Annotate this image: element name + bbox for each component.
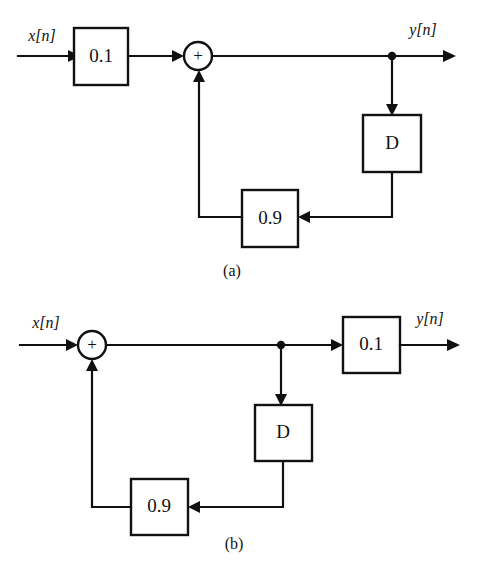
block-gain-feedback-b-label: 0.9: [147, 495, 171, 516]
figure-root: 0.1 +: [0, 0, 478, 564]
output-signal-label-a: y[n]: [407, 21, 437, 39]
adder-a[interactable]: +: [184, 42, 212, 70]
block-gain-feedback-a-label: 0.9: [258, 207, 282, 228]
adder-b-plus-label: +: [87, 335, 97, 354]
arrowhead-icon: [66, 339, 78, 351]
panel-a-caption: (a): [223, 262, 241, 280]
input-signal-label-b: x[n]: [31, 314, 60, 331]
wire-gain-to-output-b: [400, 339, 460, 351]
adder-b[interactable]: +: [78, 331, 106, 359]
block-delay-a[interactable]: D: [363, 115, 421, 172]
block-gain-forward-b-label: 0.1: [359, 333, 383, 354]
wire-tap-to-delay-b: [275, 345, 287, 406]
block-diagram-figure: 0.1 +: [0, 0, 478, 564]
wire-sum-to-output-a: [212, 50, 456, 62]
wire-gain-to-sum-a: [128, 50, 184, 62]
arrowhead-icon: [86, 359, 98, 371]
wire-input-to-sum-b: [20, 339, 78, 351]
arrowhead-icon: [298, 211, 310, 223]
arrowhead-icon: [447, 339, 460, 351]
wire-sum-to-gain-b: [106, 339, 343, 351]
block-delay-a-label: D: [385, 132, 399, 153]
wire-gainfb-to-sum-a: [193, 70, 242, 217]
block-gain-forward-b[interactable]: 0.1: [343, 317, 400, 373]
wire-delay-to-gainfb-b: [188, 461, 283, 513]
block-gain-forward-a[interactable]: 0.1: [74, 28, 128, 85]
adder-a-plus-label: +: [193, 46, 203, 65]
arrowhead-icon: [188, 501, 200, 513]
block-delay-b[interactable]: D: [255, 405, 312, 461]
wire-input-to-gain-a: [18, 50, 80, 62]
block-gain-forward-a-label: 0.1: [89, 45, 113, 66]
block-delay-b-label: D: [276, 421, 290, 442]
panel-b-caption: (b): [225, 535, 244, 553]
panel-b: + 0.1: [20, 310, 460, 553]
arrowhead-icon: [443, 50, 456, 62]
block-gain-feedback-b[interactable]: 0.9: [131, 479, 188, 535]
arrowhead-icon: [331, 339, 343, 351]
output-signal-label-b: y[n]: [414, 310, 444, 328]
wire-gainfb-to-sum-b: [86, 359, 131, 507]
block-gain-feedback-a[interactable]: 0.9: [242, 190, 298, 247]
wire-tap-to-delay-a: [386, 56, 398, 116]
wire-delay-to-gainfb-a: [298, 172, 392, 223]
arrowhead-icon: [193, 70, 205, 82]
input-signal-label-a: x[n]: [27, 27, 56, 44]
panel-a: 0.1 +: [18, 21, 456, 280]
arrowhead-icon: [172, 50, 184, 62]
